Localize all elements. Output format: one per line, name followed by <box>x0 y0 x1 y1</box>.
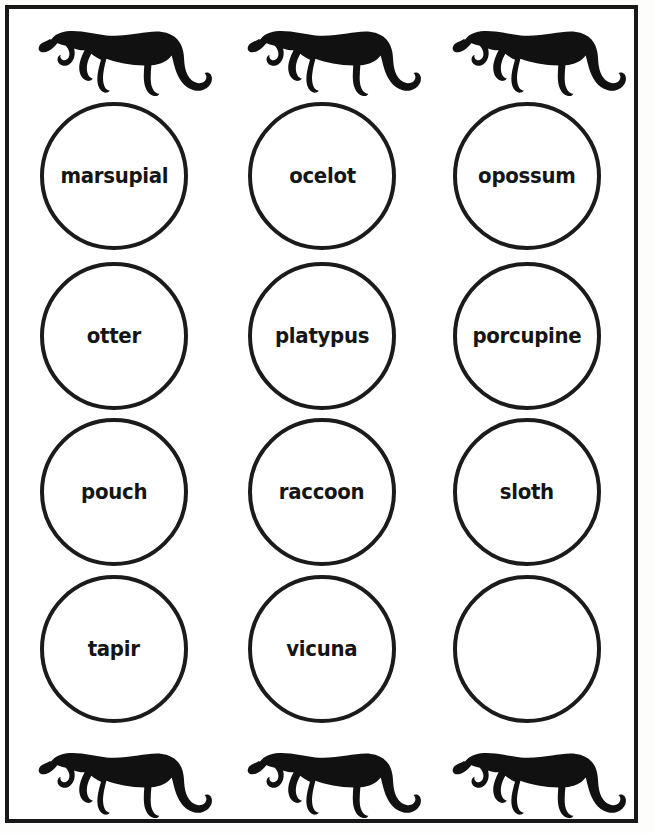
word-circle[interactable]: porcupine <box>453 262 601 410</box>
word-circle[interactable]: ocelot <box>248 102 396 250</box>
word-circle[interactable]: sloth <box>453 418 601 566</box>
word-circle[interactable]: otter <box>40 262 188 410</box>
jaguar-silhouette-icon <box>247 742 423 818</box>
word-circle[interactable]: vicuna <box>248 575 396 723</box>
bottom-silhouette-row <box>0 742 654 818</box>
word-circle-label: opossum <box>478 166 575 187</box>
jaguar-silhouette-icon <box>38 742 214 818</box>
word-circle[interactable]: opossum <box>453 102 601 250</box>
word-circle-label: tapir <box>88 639 140 660</box>
word-circle-label: marsupial <box>60 166 168 187</box>
word-circle-grid: marsupial ocelot opossum otter platypus … <box>0 0 654 833</box>
word-circle[interactable]: pouch <box>40 418 188 566</box>
word-circle-label: raccoon <box>279 482 365 503</box>
word-circle-empty[interactable] <box>453 575 601 723</box>
word-circle-label: porcupine <box>472 326 581 347</box>
word-circle-label: pouch <box>81 482 147 503</box>
word-circle[interactable]: raccoon <box>248 418 396 566</box>
word-circle-label: ocelot <box>289 166 356 187</box>
word-circle-label: platypus <box>275 326 369 347</box>
word-circle-label: sloth <box>500 482 554 503</box>
word-circle-label: vicuna <box>286 639 357 660</box>
word-circle[interactable]: platypus <box>248 262 396 410</box>
worksheet-page: marsupial ocelot opossum otter platypus … <box>0 0 654 833</box>
jaguar-silhouette-icon <box>452 742 628 818</box>
word-circle[interactable]: marsupial <box>40 102 188 250</box>
word-circle-label: otter <box>87 326 141 347</box>
word-circle[interactable]: tapir <box>40 575 188 723</box>
